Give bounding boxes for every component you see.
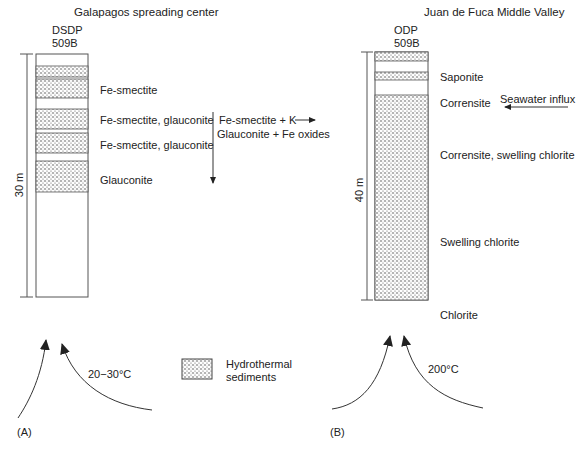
temperature-b: 200°C xyxy=(428,363,459,375)
curved-arrow-icon xyxy=(332,336,390,409)
seawater-influx-annotation: Seawater influx xyxy=(500,93,576,105)
depth-scale-a: 30 m xyxy=(13,54,33,297)
panel-b: Juan de Fuca Middle Valley ODP 509B 40 m… xyxy=(330,6,576,438)
core-column-a xyxy=(36,54,88,297)
panel-b-title: Juan de Fuca Middle Valley xyxy=(424,6,565,18)
reaction-annotation: Fe-smectite + K Glauconite + Fe oxides xyxy=(213,112,330,183)
sediment-layer xyxy=(36,79,88,98)
hydrothermal-sediment-swatch xyxy=(182,359,212,379)
sediment-layer xyxy=(375,72,428,80)
legend: Hydrothermal sediments xyxy=(182,358,292,383)
site-a-label-line1: DSDP xyxy=(52,24,83,36)
site-b-label-line1: ODP xyxy=(394,24,418,36)
layer-label-a: Fe-smectite xyxy=(100,84,157,96)
sediment-layer xyxy=(36,133,88,153)
sediment-layer xyxy=(375,52,428,61)
panel-label-b: (B) xyxy=(330,426,345,438)
curved-arrow-icon xyxy=(18,340,46,418)
depth-label-b: 40 m xyxy=(353,178,365,202)
layer-label-a: Fe-smectite, glauconite xyxy=(100,139,214,151)
layer-label-b: Swelling chlorite xyxy=(440,236,519,248)
depth-scale-b: 40 m xyxy=(353,52,373,300)
layer-label-a: Glauconite xyxy=(100,174,153,186)
heat-flow-arrows-a: 20−30°C xyxy=(18,340,152,418)
layer-label-b: Corrensite, swelling chlorite xyxy=(440,149,575,161)
seawater-influx-label: Seawater influx xyxy=(500,93,576,105)
layer-label-b: Corrensite xyxy=(440,97,491,109)
sediment-layer xyxy=(36,66,88,77)
layer-label-a: Fe-smectite, glauconite xyxy=(100,114,214,126)
temperature-a: 20−30°C xyxy=(88,368,131,380)
panel-label-a: (A) xyxy=(17,426,32,438)
diagram-canvas: Galapagos spreading center DSDP 509B 30 … xyxy=(0,0,584,451)
heat-flow-arrows-b: 200°C xyxy=(332,336,483,409)
layer-label-b: Saponite xyxy=(440,71,483,83)
sediment-layer xyxy=(375,95,428,300)
sediment-layer xyxy=(36,161,88,192)
legend-label-line1: Hydrothermal xyxy=(226,358,292,370)
legend-label-line2: sediments xyxy=(226,371,277,383)
site-a-label-line2: 509B xyxy=(52,37,78,49)
site-b-label-line2: 509B xyxy=(394,37,420,49)
panel-a-title: Galapagos spreading center xyxy=(74,6,219,18)
depth-label-a: 30 m xyxy=(13,173,25,197)
core-column-b xyxy=(375,52,428,300)
panel-a: Galapagos spreading center DSDP 509B 30 … xyxy=(13,6,330,438)
reaction-line2: Glauconite + Fe oxides xyxy=(217,128,330,140)
sediment-layer xyxy=(36,109,88,129)
layer-label-b: Chlorite xyxy=(440,309,478,321)
reaction-line1: Fe-smectite + K xyxy=(219,114,297,126)
